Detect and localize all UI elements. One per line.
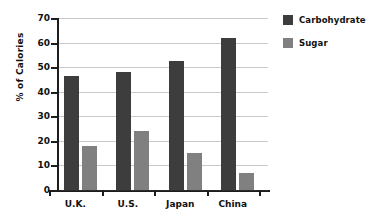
legend-label: Sugar [299, 38, 328, 48]
x-axis-tick-label: China [207, 199, 260, 209]
y-axis-tick-mark [51, 67, 59, 69]
y-axis-tick-label: 70 [24, 14, 50, 23]
legend-entry: Carbohydrate [283, 15, 373, 25]
x-axis-tick-mark [49, 190, 51, 196]
legend-entry: Sugar [283, 38, 373, 48]
y-axis-tick-label: 0 [24, 186, 50, 195]
bar-carbohydrate-japan [169, 61, 184, 190]
y-axis-tick-label: 60 [24, 39, 50, 48]
y-axis-tick-mark [51, 43, 59, 45]
bar-carbohydrate-china [221, 38, 236, 190]
plot-area [58, 18, 268, 190]
y-axis-tick-label: 40 [24, 88, 50, 97]
y-axis-tick-label: 30 [24, 112, 50, 121]
bar-chart-figure: % of Calories 706050403020100 Carbohydra… [0, 0, 374, 224]
chart-legend: CarbohydrateSugar [283, 15, 373, 61]
x-axis-tick-mark [102, 190, 104, 196]
gridline [58, 43, 268, 44]
bar-sugar-japan [187, 153, 202, 190]
y-axis-tick-mark [51, 190, 59, 192]
gridline [58, 116, 268, 117]
x-axis-tick-label: U.K. [49, 199, 102, 209]
bar-sugar-us [134, 131, 149, 190]
legend-swatch-icon [283, 38, 293, 48]
y-axis-tick-mark [51, 165, 59, 167]
x-axis-tick-label: Japan [154, 199, 207, 209]
x-axis-tick-mark [154, 190, 156, 196]
y-axis-tick-mark [51, 141, 59, 143]
gridline [58, 92, 268, 93]
x-axis-tick-mark [207, 190, 209, 196]
gridline [58, 67, 268, 68]
y-axis-tick-mark [51, 116, 59, 118]
bar-sugar-uk [82, 146, 97, 190]
y-axis-tick-label: 20 [24, 137, 50, 146]
bar-carbohydrate-us [116, 72, 131, 190]
legend-swatch-icon [283, 15, 293, 25]
y-axis-tick-mark [51, 92, 59, 94]
x-axis-tick-mark [259, 190, 261, 196]
bar-carbohydrate-uk [64, 76, 79, 190]
y-axis-tick-label: 10 [24, 161, 50, 170]
gridline [58, 190, 268, 191]
legend-label: Carbohydrate [299, 15, 366, 25]
y-axis-tick-label: 50 [24, 63, 50, 72]
y-axis-tick-labels: 706050403020100 [16, 0, 50, 224]
x-axis-tick-label: U.S. [102, 199, 155, 209]
gridline [58, 18, 268, 19]
y-axis-tick-mark [51, 18, 59, 20]
bar-sugar-china [239, 173, 254, 190]
gridline [58, 141, 268, 142]
